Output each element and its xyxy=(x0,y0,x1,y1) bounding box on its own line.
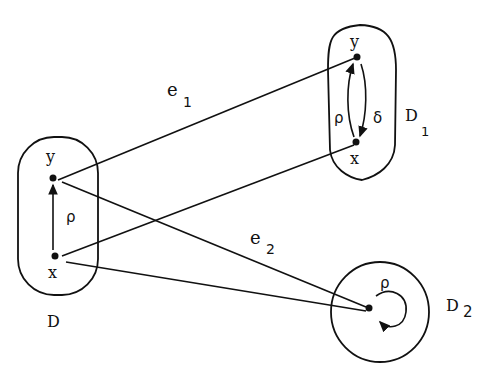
domain-D1 xyxy=(328,25,396,180)
label-D-rho: ρ xyxy=(66,208,76,226)
arrow-D2-rho-loop xyxy=(376,292,406,327)
label-domain-D1: D xyxy=(405,106,418,125)
domain-D1-boundary xyxy=(328,25,396,180)
arrow-D1-rho xyxy=(348,64,354,137)
label-D2-rho: ρ xyxy=(380,274,390,292)
label-domain-D: D xyxy=(47,312,60,331)
label-D1-rho: ρ xyxy=(334,109,344,127)
label-edge-e2-subscript: 2 xyxy=(266,241,275,257)
domain-D xyxy=(18,137,98,295)
arrow-D1-delta xyxy=(360,64,366,136)
label-D-x: x xyxy=(48,263,57,282)
node-D1-y xyxy=(354,54,361,61)
label-D1-y: y xyxy=(349,32,359,51)
edge-lines xyxy=(58,58,366,311)
edge-e2-line-y xyxy=(62,182,366,307)
domain-D-boundary xyxy=(18,137,98,295)
diagram-canvas: y x ρ D y x ρ δ D 1 ρ D 2 e 1 e 2 xyxy=(0,0,489,381)
node-D-y xyxy=(50,175,57,182)
label-D1-delta: δ xyxy=(373,109,382,127)
label-edge-e1-subscript: 1 xyxy=(183,94,192,110)
label-domain-D2: D xyxy=(446,296,459,315)
node-D-x xyxy=(52,253,59,260)
edge-e2-line-x xyxy=(66,262,366,311)
label-edge-e2: e xyxy=(250,227,261,248)
label-edge-e1: e xyxy=(167,79,178,100)
node-D1-x xyxy=(353,139,360,146)
node-D2 xyxy=(366,305,373,312)
label-D-y: y xyxy=(45,147,55,166)
label-domain-D2-subscript: 2 xyxy=(463,303,473,321)
label-domain-D1-subscript: 1 xyxy=(421,124,429,139)
label-D1-x: x xyxy=(350,149,359,168)
